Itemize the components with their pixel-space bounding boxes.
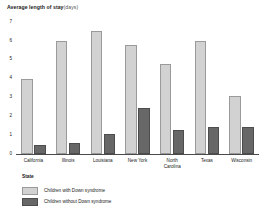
legend-item-1: Children without Down syndrome xyxy=(22,196,111,207)
legend-swatch-with-down-syndrome xyxy=(22,187,38,195)
bar[interactable] xyxy=(173,130,185,154)
bar[interactable] xyxy=(195,41,207,154)
bar[interactable] xyxy=(56,41,68,154)
chart-title: Average length of stay(days) xyxy=(7,4,78,11)
bar[interactable] xyxy=(34,145,46,154)
y-axis-tick-label: 7 xyxy=(0,20,12,25)
bar-group xyxy=(195,22,220,154)
legend-label-without-down-syndrome: Children without Down syndrome xyxy=(44,199,111,204)
y-axis-tick-label: 6 xyxy=(0,39,12,44)
bar[interactable] xyxy=(138,108,150,154)
chart-title-text: Average length of stay xyxy=(7,4,64,10)
chart-title-units: (days) xyxy=(64,4,79,10)
bar-group xyxy=(160,22,185,154)
x-axis-line xyxy=(16,154,259,155)
bar[interactable] xyxy=(242,127,254,154)
bar-group xyxy=(21,22,46,154)
chart-figure: Average length of stay(days) State Child… xyxy=(0,0,264,215)
bar[interactable] xyxy=(21,79,33,154)
x-axis-tick-label: Illinois xyxy=(51,158,86,164)
x-axis-tick-label: California xyxy=(16,158,51,164)
bar[interactable] xyxy=(125,45,137,154)
bar[interactable] xyxy=(91,31,103,154)
y-axis-tick-label: 2 xyxy=(0,114,12,119)
bar[interactable] xyxy=(229,96,241,154)
bar[interactable] xyxy=(69,143,81,154)
legend-swatch-without-down-syndrome xyxy=(22,198,38,206)
x-axis-title: State xyxy=(22,174,34,179)
x-axis-tick-label: New York xyxy=(120,158,155,164)
bar[interactable] xyxy=(160,64,172,155)
x-axis-tick-label: Louisiana xyxy=(85,158,120,164)
bar-group xyxy=(91,22,116,154)
bar[interactable] xyxy=(104,134,116,154)
legend-label-with-down-syndrome: Children with Down syndrome xyxy=(44,188,105,193)
legend-item-0: Children with Down syndrome xyxy=(22,185,111,196)
chart-legend: Children with Down syndrome Children wit… xyxy=(22,185,111,207)
y-axis-tick-label: 3 xyxy=(0,95,12,100)
y-axis-tick-label: 1 xyxy=(0,133,12,138)
y-axis-tick-label: 4 xyxy=(0,76,12,81)
y-axis-tick-label: 0 xyxy=(0,152,12,157)
bar-group xyxy=(125,22,150,154)
bar[interactable] xyxy=(208,127,220,154)
x-axis-tick-label: Texas xyxy=(190,158,225,164)
plot-area xyxy=(16,22,259,154)
bar-group xyxy=(229,22,254,154)
y-axis-tick-label: 5 xyxy=(0,57,12,62)
x-axis-tick-label: NorthCarolina xyxy=(155,158,190,169)
x-axis-tick-label: Wisconsin xyxy=(224,158,259,164)
bar-group xyxy=(56,22,81,154)
